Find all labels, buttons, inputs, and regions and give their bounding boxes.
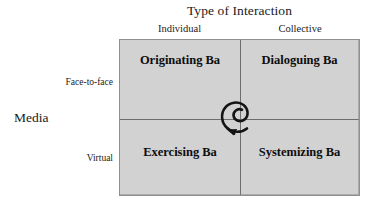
quadrant-label-originating-ba: Originating Ba xyxy=(120,53,240,68)
column-header-individual: Individual xyxy=(119,22,240,35)
matrix-grid: Originating Ba Dialoguing Ba Exercising … xyxy=(119,39,360,196)
row-header-face-to-face: Face-to-face xyxy=(66,76,113,88)
y-axis-title: Media xyxy=(14,110,49,126)
x-axis-title: Type of Interaction xyxy=(119,3,360,19)
horizontal-divider xyxy=(120,119,359,120)
quadrant-label-exercising-ba: Exercising Ba xyxy=(120,145,240,160)
spiral-arrow-icon xyxy=(206,89,268,151)
quadrant-label-systemizing-ba: Systemizing Ba xyxy=(240,145,359,160)
column-header-collective: Collective xyxy=(240,22,360,35)
quadrant-label-dialoguing-ba: Dialoguing Ba xyxy=(240,53,359,68)
row-header-virtual: Virtual xyxy=(87,152,113,164)
ba-matrix-diagram: Type of Interaction Individual Collectiv… xyxy=(0,0,382,216)
